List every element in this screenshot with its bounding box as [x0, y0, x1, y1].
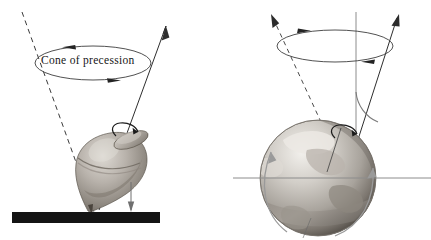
precession-ellipse-earth	[277, 30, 393, 62]
earth-globe	[253, 120, 385, 238]
spinning-top-graphics	[0, 0, 215, 240]
table-surface-bar	[12, 212, 160, 223]
tilt-angle-arc	[356, 92, 378, 122]
solid-north-star-axis	[354, 18, 397, 152]
vega-arrowhead	[271, 14, 279, 28]
spinning-top-body	[76, 127, 151, 215]
north-star-arrowhead	[392, 14, 400, 27]
cone-of-precession-label-left: Cone of precession	[41, 55, 135, 67]
earth-precession-graphics	[215, 0, 431, 240]
panel-earth-precession: Vega North Star Cone of precession 2312°…	[215, 0, 431, 240]
precession-arrowhead-top	[62, 45, 76, 50]
panel-spinning-top: Cone of precession	[0, 0, 215, 240]
precession-figure: Cone of precession	[0, 0, 431, 240]
